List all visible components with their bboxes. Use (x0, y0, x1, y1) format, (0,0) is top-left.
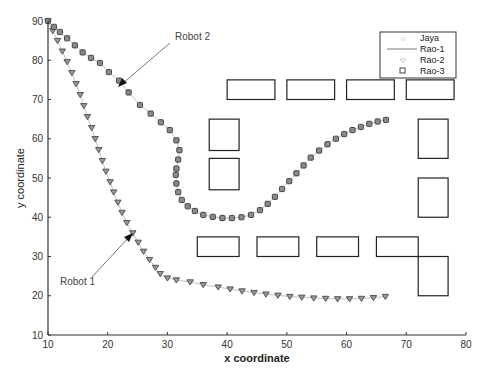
square-marker-icon (325, 142, 330, 147)
obstacle-rect (227, 80, 275, 100)
triangle-marker-icon (96, 148, 102, 153)
y-tick-label: 10 (32, 330, 44, 341)
obstacle-rect (209, 158, 239, 189)
square-marker-icon (265, 201, 270, 206)
square-marker-icon (51, 24, 56, 29)
triangle-marker-icon (146, 257, 152, 262)
triangle-marker-icon (88, 126, 94, 131)
square-marker-icon (80, 50, 85, 55)
annotations: Robot 1 Robot 2 (60, 31, 210, 287)
x-tick-label: 70 (401, 339, 413, 350)
triangle-marker-icon (59, 49, 65, 54)
robot-2-label: Robot 2 (175, 31, 210, 42)
obstacle-rect (197, 237, 239, 257)
legend-box (380, 32, 456, 78)
square-marker-icon (248, 212, 253, 217)
triangle-marker-icon (135, 240, 141, 245)
square-marker-icon (287, 179, 292, 184)
x-tick-label: 80 (460, 339, 472, 350)
y-tick-label: 20 (32, 290, 44, 301)
square-marker-icon (367, 121, 372, 126)
triangle-marker-icon (64, 60, 70, 65)
obstacle-rect (406, 80, 454, 100)
obstacle-rect (418, 119, 448, 158)
x-tick-label: 40 (222, 339, 234, 350)
y-tick-label: 50 (32, 173, 44, 184)
robot-1-label: Robot 1 (60, 276, 95, 287)
x-axis-title: x coordinate (224, 352, 289, 364)
x-tick-label: 60 (341, 339, 353, 350)
triangle-marker-icon (346, 297, 352, 302)
square-marker-icon (294, 171, 299, 176)
square-marker-icon (97, 60, 102, 65)
legend-label: Rao-3 (420, 66, 445, 76)
obstacle-rect (418, 257, 448, 296)
square-marker-icon (177, 148, 182, 153)
triangle-marker-icon (99, 159, 105, 164)
triangle-marker-icon (140, 249, 146, 254)
robot-1-arrow (92, 236, 130, 277)
square-marker-icon (375, 119, 380, 124)
triangle-marker-icon (358, 296, 364, 301)
square-marker-icon (358, 124, 363, 129)
y-tick-label: 30 (32, 251, 44, 262)
square-marker-icon (65, 36, 70, 41)
square-marker-icon (220, 215, 225, 220)
obstacle-rect (209, 119, 239, 150)
triangle-marker-icon (69, 71, 75, 76)
triangle-marker-icon (73, 82, 79, 87)
obstacle-rect (257, 237, 299, 257)
square-marker-icon (317, 148, 322, 153)
square-marker-icon (279, 186, 284, 191)
x-tick-label: 50 (281, 339, 293, 350)
square-marker-icon (72, 43, 77, 48)
star-marker-icon: ☆ (400, 35, 406, 42)
y-tick-label: 60 (32, 133, 44, 144)
triangle-marker-icon (54, 38, 60, 43)
triangle-marker-icon (77, 93, 83, 98)
triangle-marker-icon (152, 265, 158, 270)
robot-paths (45, 18, 389, 301)
triangle-marker-icon (84, 115, 90, 120)
obstacle-rect (347, 80, 395, 100)
y-tick-label: 90 (32, 16, 44, 27)
triangle-marker-icon (103, 169, 109, 174)
triangle-marker-icon (119, 210, 125, 215)
legend-label: Jaya (420, 33, 439, 43)
path-planning-chart: 1020304050607080 102030405060708090 x co… (0, 0, 484, 375)
square-marker-icon (239, 215, 244, 220)
square-marker-icon (126, 90, 131, 95)
triangle-marker-icon (334, 297, 340, 302)
square-marker-icon (342, 131, 347, 136)
triangle-marker-icon (107, 180, 113, 185)
square-marker-icon (106, 69, 111, 74)
square-marker-icon (179, 197, 184, 202)
square-marker-icon (229, 215, 234, 220)
square-marker-icon (333, 136, 338, 141)
legend-label: Rao-1 (420, 44, 445, 54)
triangle-marker-icon (92, 137, 98, 142)
square-marker-icon (301, 163, 306, 168)
triangle-marker-icon (115, 200, 121, 205)
obstacle-rect (418, 178, 448, 217)
square-marker-icon (272, 194, 277, 199)
square-marker-icon (137, 102, 142, 107)
triangle-marker-icon (311, 296, 317, 301)
y-tick-label: 40 (32, 212, 44, 223)
square-marker-icon (148, 111, 153, 116)
obstacle-rect (317, 237, 359, 257)
square-marker-icon (158, 120, 163, 125)
legend-item-jaya: ☆ Jaya (400, 33, 439, 43)
square-marker-icon (350, 128, 355, 133)
square-marker-icon (174, 138, 179, 143)
square-marker-icon (185, 204, 190, 209)
square-marker-icon (174, 166, 179, 171)
obstacle-rect (376, 237, 418, 257)
square-marker-icon (174, 181, 179, 186)
square-marker-icon (88, 55, 93, 60)
triangle-marker-icon (157, 272, 163, 277)
x-tick-label: 10 (42, 339, 54, 350)
legend: ☆ Jaya Rao-1 Rao-2 Rao-3 (380, 32, 456, 78)
y-tick-label: 80 (32, 55, 44, 66)
square-marker-icon (57, 29, 62, 34)
